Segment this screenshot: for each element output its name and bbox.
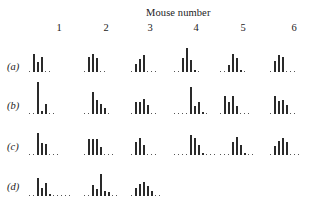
histogram-dot: [53, 195, 54, 196]
histogram-dot: [248, 154, 249, 155]
row-label-c: (c): [7, 141, 19, 152]
histogram-dot: [210, 154, 211, 155]
histogram-dot: [33, 195, 34, 196]
histogram-dot: [294, 154, 295, 155]
row-label-a: (a): [7, 61, 19, 72]
histogram-c-4: [174, 105, 216, 155]
histogram-dot: [155, 195, 156, 196]
histogram-bar: [92, 185, 94, 196]
histogram-bar: [49, 194, 51, 196]
histogram-dot: [65, 195, 66, 196]
histogram-bar: [282, 138, 284, 155]
histogram-bar: [286, 142, 288, 155]
histogram-dot: [252, 154, 253, 155]
histogram-bar: [240, 145, 242, 155]
histogram-dot: [228, 154, 229, 155]
histogram-bar: [194, 138, 196, 155]
histogram-dot: [159, 195, 160, 196]
histogram-bar: [139, 184, 141, 196]
histogram-dot: [186, 154, 187, 155]
histogram-d-1: [29, 146, 71, 196]
histogram-bar: [37, 178, 39, 196]
histogram-bar: [41, 188, 43, 196]
histogram-bar: [151, 191, 153, 196]
histogram-dot: [88, 195, 89, 196]
histogram-dot: [290, 154, 291, 155]
histogram-dot: [298, 154, 299, 155]
histogram-dot: [84, 195, 85, 196]
histogram-bar: [100, 174, 102, 196]
histogram-bar: [96, 189, 98, 196]
histogram-d-2: [84, 146, 126, 196]
histogram-dot: [57, 195, 58, 196]
row-label-b: (b): [7, 100, 19, 111]
histogram-dot: [174, 154, 175, 155]
histogram-dot: [61, 195, 62, 196]
histogram-dot: [182, 154, 183, 155]
histogram-c-6: [270, 105, 312, 155]
histogram-dot: [112, 195, 113, 196]
histogram-d-3: [131, 146, 173, 196]
histogram-dot: [69, 195, 70, 196]
histogram-dot: [131, 195, 132, 196]
histogram-dot: [178, 154, 179, 155]
histogram-bar: [190, 135, 192, 155]
histogram-dot: [220, 154, 221, 155]
histogram-bar: [198, 145, 200, 155]
histogram-bar: [278, 141, 280, 155]
histogram-bar: [202, 153, 204, 155]
histogram-c-5: [220, 105, 262, 155]
histogram-bar: [108, 192, 110, 196]
figure-title: Mouse number: [146, 7, 210, 18]
row-label-d: (d): [7, 181, 19, 192]
histogram-bar: [274, 146, 276, 155]
histogram-bar: [236, 137, 238, 155]
histogram-bar: [45, 183, 47, 196]
histogram-dot: [116, 195, 117, 196]
histogram-bar: [104, 191, 106, 196]
histogram-dot: [224, 154, 225, 155]
histogram-dot: [214, 154, 215, 155]
histogram-dot: [29, 195, 30, 196]
histogram-bar: [135, 188, 137, 196]
histogram-bar: [143, 182, 145, 196]
histogram-bar: [147, 186, 149, 196]
histogram-dot: [270, 154, 271, 155]
histogram-bar: [244, 153, 246, 155]
histogram-bar: [232, 142, 234, 155]
histogram-dot: [206, 154, 207, 155]
